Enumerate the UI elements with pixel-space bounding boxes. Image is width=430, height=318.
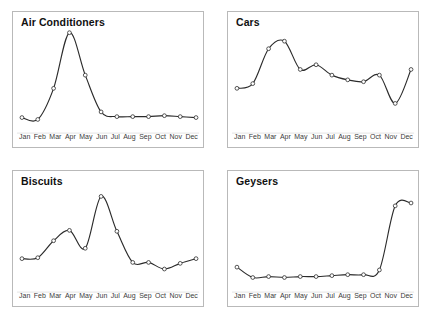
data-point-marker (162, 267, 166, 271)
x-tick-label: Jul (326, 291, 335, 300)
data-point-marker (298, 275, 302, 279)
x-tick-label: Nov (384, 291, 396, 300)
x-tick-label: Mar (49, 132, 61, 141)
data-point-marker (99, 110, 103, 114)
x-tick-label: Mar (49, 291, 61, 300)
data-point-marker (83, 246, 87, 250)
x-tick-label: Sep (139, 132, 151, 141)
x-tick-label: Oct (155, 132, 166, 141)
data-point-marker (298, 68, 302, 72)
x-tick-label: Apr (65, 291, 76, 300)
data-point-marker (20, 257, 24, 261)
plot-area-biscuits (13, 171, 203, 306)
data-point-marker (20, 116, 24, 120)
x-tick-label: Jun (311, 132, 322, 141)
panel-cell-air-conditioners: Air Conditioners JanFebMarAprMayJunJulAu… (0, 0, 215, 159)
data-point-marker (330, 73, 334, 77)
x-tick-label: Oct (370, 291, 381, 300)
data-point-marker (314, 63, 318, 67)
x-tick-label: Sep (354, 132, 366, 141)
data-point-marker (346, 273, 350, 277)
x-axis-labels-air-conditioners: JanFebMarAprMayJunJulAugSepOctNovDec (19, 132, 198, 143)
x-tick-label: Apr (280, 132, 291, 141)
x-tick-label: Aug (338, 291, 350, 300)
data-point-marker (147, 261, 151, 265)
x-tick-label: Oct (370, 132, 381, 141)
x-tick-label: May (79, 291, 92, 300)
data-point-marker (362, 273, 366, 277)
x-tick-label: Nov (384, 132, 396, 141)
x-axis-labels-cars: JanFebMarAprMayJunJulAugSepOctNovDec (234, 132, 413, 143)
data-point-marker (409, 68, 413, 72)
data-point-marker (68, 31, 72, 35)
data-point-marker (115, 229, 119, 233)
x-tick-label: Dec (400, 291, 412, 300)
x-tick-label: Feb (34, 291, 46, 300)
series-line (237, 200, 411, 278)
x-tick-label: Jan (234, 291, 245, 300)
chart-grid: Air Conditioners JanFebMarAprMayJunJulAu… (0, 0, 430, 318)
series-line (22, 33, 196, 122)
x-tick-label: Aug (123, 132, 135, 141)
data-point-marker (283, 39, 287, 43)
data-point-marker (68, 228, 72, 232)
x-tick-label: Mar (264, 132, 276, 141)
data-point-marker (362, 80, 366, 84)
plot-area-air-conditioners (13, 12, 203, 147)
x-tick-label: Aug (123, 291, 135, 300)
data-point-marker (393, 102, 397, 106)
data-point-marker (178, 261, 182, 265)
data-point-marker (178, 115, 182, 119)
x-tick-label: Jun (311, 291, 322, 300)
data-point-marker (235, 86, 239, 90)
panel-title-biscuits: Biscuits (21, 175, 63, 187)
x-tick-label: Nov (169, 132, 181, 141)
x-tick-label: Jul (326, 132, 335, 141)
data-point-marker (194, 257, 198, 261)
data-point-marker (283, 276, 287, 280)
data-point-marker (267, 47, 271, 51)
data-point-marker (194, 116, 198, 120)
data-point-marker (393, 204, 397, 208)
series-line (237, 40, 411, 104)
x-tick-label: Sep (354, 291, 366, 300)
x-tick-label: Sep (139, 291, 151, 300)
panel-cell-cars: Cars JanFebMarAprMayJunJulAugSepOctNovDe… (215, 0, 430, 159)
data-point-marker (235, 265, 239, 269)
x-tick-label: Jul (111, 291, 120, 300)
data-point-marker (377, 73, 381, 77)
x-tick-label: Mar (264, 291, 276, 300)
x-tick-label: Jan (19, 132, 30, 141)
x-tick-label: Apr (65, 132, 76, 141)
panel-title-air-conditioners: Air Conditioners (21, 16, 105, 28)
data-point-marker (330, 274, 334, 278)
x-tick-label: Apr (280, 291, 291, 300)
plot-area-cars (228, 12, 418, 147)
data-point-marker (131, 115, 135, 119)
x-tick-label: Jan (19, 291, 30, 300)
data-point-marker (83, 73, 87, 77)
data-point-marker (36, 256, 40, 260)
data-point-marker (251, 82, 255, 86)
data-point-marker (115, 115, 119, 119)
panel-title-cars: Cars (236, 16, 260, 28)
x-tick-label: Oct (155, 291, 166, 300)
panel-cell-geysers: Geysers JanFebMarAprMayJunJulAugSepOctNo… (215, 159, 430, 318)
data-point-marker (251, 276, 255, 280)
data-point-marker (36, 118, 40, 122)
data-point-marker (147, 115, 151, 119)
x-tick-label: Feb (249, 132, 261, 141)
data-point-marker (314, 275, 318, 279)
x-tick-label: Feb (249, 291, 261, 300)
x-axis-labels-geysers: JanFebMarAprMayJunJulAugSepOctNovDec (234, 291, 413, 302)
chart-panel-air-conditioners: Air Conditioners JanFebMarAprMayJunJulAu… (12, 11, 204, 148)
x-tick-label: Jun (96, 132, 107, 141)
x-tick-label: May (294, 291, 307, 300)
x-tick-label: Dec (185, 132, 197, 141)
x-tick-label: Dec (185, 291, 197, 300)
chart-panel-cars: Cars JanFebMarAprMayJunJulAugSepOctNovDe… (227, 11, 419, 148)
data-point-marker (377, 268, 381, 272)
plot-area-geysers (228, 171, 418, 306)
panel-title-geysers: Geysers (236, 175, 278, 187)
panel-cell-biscuits: Biscuits JanFebMarAprMayJunJulAugSepOctN… (0, 159, 215, 318)
